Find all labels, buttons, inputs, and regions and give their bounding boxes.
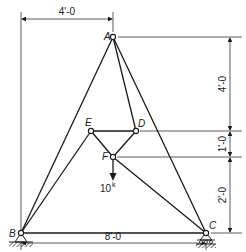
node-label-A: A [103, 31, 111, 42]
members [21, 37, 206, 233]
member-AB [21, 37, 113, 233]
load-unit: k [112, 181, 116, 188]
dimension-top: 4'-0 [21, 6, 113, 233]
member-FC [113, 157, 206, 233]
node-label-E: E [85, 117, 92, 128]
load-arrow: 10 k [100, 160, 117, 194]
dimension-bottom: 8'-0 [21, 231, 206, 250]
nodes [18, 34, 208, 235]
member-DF [113, 131, 136, 157]
node-B [18, 230, 23, 235]
member-AC [113, 37, 206, 233]
node-label-D: D [138, 118, 145, 129]
member-AD [113, 37, 136, 131]
load-value: 10 [100, 183, 112, 194]
node-F [110, 154, 115, 159]
node-label-F: F [102, 151, 109, 162]
dimension-top-label: 4'-0 [59, 6, 76, 17]
node-A [110, 34, 115, 39]
node-C [203, 230, 208, 235]
dimension-right-1: 4'-0 [217, 75, 228, 92]
node-E [88, 128, 93, 133]
dimension-right-3: 2'-0 [217, 186, 228, 203]
truss-diagram: 4'-0 4'-0 1'-0 2'-0 8'-0 10 k [0, 0, 246, 252]
dimension-right: 4'-0 1'-0 2'-0 [117, 37, 242, 233]
node-D [133, 128, 138, 133]
node-label-B: B [9, 228, 16, 239]
member-BE [21, 131, 91, 233]
node-label-C: C [209, 220, 217, 231]
dimension-right-2: 1'-0 [217, 135, 228, 152]
